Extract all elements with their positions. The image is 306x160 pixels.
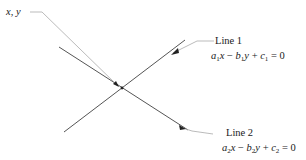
intersection-point <box>121 87 124 90</box>
line2-name: Line 2 <box>226 128 253 139</box>
line1-equation: a1x − b1y + c1 = 0 <box>211 51 285 63</box>
line1-arrowhead-icon <box>171 48 179 55</box>
line-1 <box>64 40 185 132</box>
line1-name: Line 1 <box>215 36 242 47</box>
point-leader <box>30 12 117 85</box>
point-label: x, y <box>6 7 21 18</box>
line2-leader <box>183 128 213 134</box>
line-2 <box>59 47 188 130</box>
diagram-canvas <box>0 0 306 160</box>
line2-equation: a2x − b2y + c2 = 0 <box>222 143 296 155</box>
line1-leader <box>173 41 214 53</box>
